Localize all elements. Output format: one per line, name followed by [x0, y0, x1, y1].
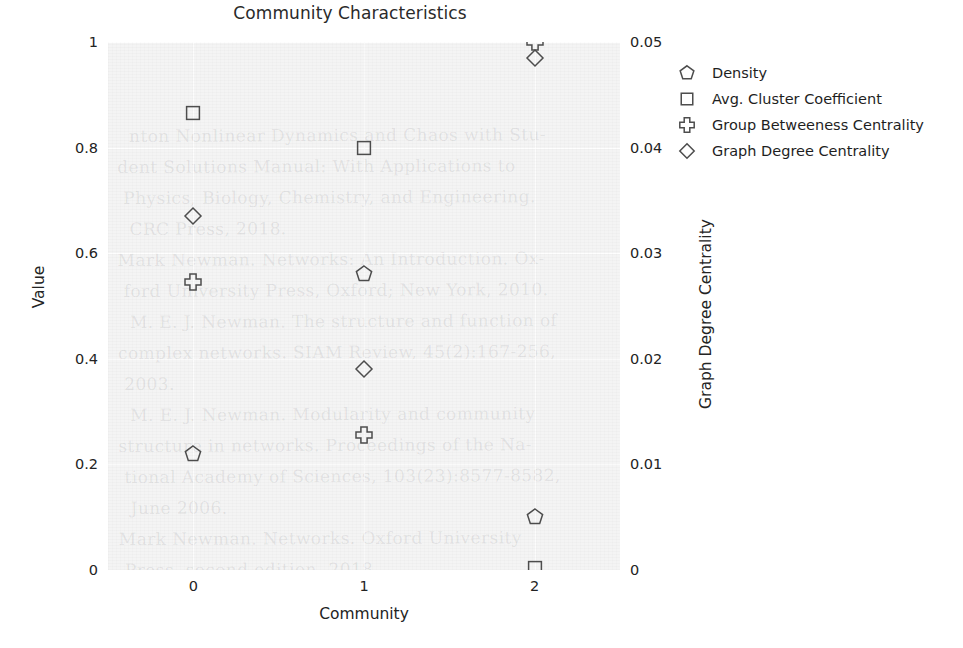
ghost-text-line: M. E. J. Newman. The structure and funct…: [114, 305, 619, 338]
legend-label: Avg. Cluster Coefficient: [712, 91, 882, 107]
data-point-diamond: [354, 359, 374, 379]
y-axis-left-tick-label: 0.8: [75, 140, 98, 156]
y-axis-right-tick-label: 0.03: [630, 245, 662, 261]
background-ghost-text: nton Nonlinear Dynamics and Chaos with S…: [113, 119, 620, 570]
legend-marker-square-icon: [676, 88, 698, 110]
data-point-diamond: [183, 206, 203, 226]
x-axis-tick-label: 1: [359, 578, 368, 594]
x-axis-tick-label: 0: [189, 578, 198, 594]
legend-item[interactable]: Avg. Cluster Coefficient: [676, 86, 956, 112]
data-point-plus: [183, 272, 203, 292]
y-axis-left-tick-label: 0.2: [75, 456, 98, 472]
data-point-square: [183, 103, 203, 123]
chart-legend: DensityAvg. Cluster CoefficientGroup Bet…: [676, 60, 956, 164]
y-axis-left-tick-label: 0.4: [75, 351, 98, 367]
y-axis-right-tick-label: 0.02: [630, 351, 662, 367]
y-axis-left-tick-label: 0.6: [75, 245, 98, 261]
y-axis-right-label: Graph Degree Centrality: [697, 199, 715, 429]
y-axis-left-label: Value: [30, 232, 48, 342]
y-axis-right-tick-label: 0: [630, 562, 639, 578]
y-axis-right-tick-label: 0.05: [630, 34, 662, 50]
y-axis-left-tick-label: 1: [89, 34, 98, 50]
data-point-diamond: [525, 48, 545, 68]
legend-item[interactable]: Group Betweeness Centrality: [676, 112, 956, 138]
chart-figure: Community Characteristics nton Nonlinear…: [0, 0, 963, 648]
data-point-pentagon: [183, 444, 203, 464]
gridline-vertical-2: [535, 42, 536, 570]
y-axis-right-tick-label: 0.01: [630, 456, 662, 472]
x-axis-ticks: 012: [108, 578, 620, 602]
legend-label: Graph Degree Centrality: [712, 143, 890, 159]
x-axis-tick-label: 2: [530, 578, 539, 594]
chart-title: Community Characteristics: [0, 3, 700, 23]
legend-marker-diamond-icon: [676, 140, 698, 162]
data-point-plus: [354, 425, 374, 445]
legend-item[interactable]: Density: [676, 60, 956, 86]
data-point-pentagon: [354, 264, 374, 284]
legend-marker-plus-icon: [676, 114, 698, 136]
plot-area: nton Nonlinear Dynamics and Chaos with S…: [108, 42, 620, 570]
legend-label: Density: [712, 65, 767, 81]
y-axis-left-ticks: 00.20.40.60.81: [40, 42, 98, 570]
legend-item[interactable]: Graph Degree Centrality: [676, 138, 956, 164]
gridline-vertical-1: [364, 42, 365, 570]
data-point-pentagon: [525, 507, 545, 527]
y-axis-left-tick-label: 0: [89, 562, 98, 578]
y-axis-right-tick-label: 0.04: [630, 140, 662, 156]
x-axis-label: Community: [108, 605, 620, 623]
data-point-square: [354, 138, 374, 158]
legend-marker-pentagon-icon: [676, 62, 698, 84]
legend-label: Group Betweeness Centrality: [712, 117, 924, 133]
data-point-square: [525, 558, 545, 570]
